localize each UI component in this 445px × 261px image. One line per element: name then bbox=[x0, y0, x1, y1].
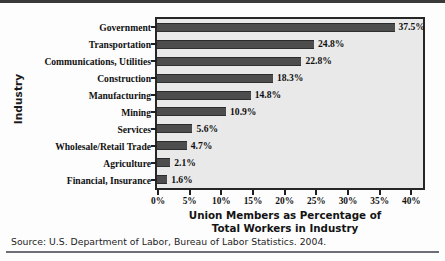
bar-value-label: 1.6% bbox=[171, 175, 193, 184]
x-axis-title-line1: Union Members as Percentage of bbox=[140, 209, 430, 222]
x-axis-tick bbox=[220, 190, 222, 195]
bar-value-label: 37.5% bbox=[399, 22, 425, 31]
x-axis-tick bbox=[347, 190, 349, 195]
chart-figure: Industry GovernmentTransportationCommuni… bbox=[0, 0, 445, 261]
y-axis-tick bbox=[151, 179, 157, 181]
y-axis-tick bbox=[151, 162, 157, 164]
y-axis-tick bbox=[151, 43, 157, 45]
category-label: Transportation bbox=[40, 40, 151, 50]
category-label: Wholesale/Retail Trade bbox=[40, 142, 151, 152]
bar-value-label: 18.3% bbox=[277, 73, 303, 82]
bar-value-label: 14.8% bbox=[255, 90, 281, 99]
y-axis-tick bbox=[151, 26, 157, 28]
category-label: Financial, Insurance bbox=[40, 176, 151, 186]
y-axis-tick bbox=[151, 128, 157, 130]
top-divider bbox=[0, 0, 445, 3]
x-axis-tick bbox=[284, 190, 286, 195]
y-axis-tick bbox=[151, 145, 157, 147]
category-labels: GovernmentTransportationCommunications, … bbox=[40, 18, 151, 190]
bar-value-label: 22.8% bbox=[305, 56, 331, 65]
y-axis-tick bbox=[151, 60, 157, 62]
bar-value-label: 5.6% bbox=[196, 124, 218, 133]
bar bbox=[157, 158, 170, 167]
bar bbox=[157, 107, 226, 116]
x-axis-tick bbox=[410, 190, 412, 195]
x-axis-tick-label: 40% bbox=[391, 196, 431, 206]
y-axis-tick bbox=[151, 111, 157, 113]
category-label: Manufacturing bbox=[40, 91, 151, 101]
y-axis-title: Industry bbox=[12, 64, 24, 134]
category-label: Communications, Utilities bbox=[40, 57, 151, 67]
category-label: Mining bbox=[40, 108, 151, 118]
y-axis-tick bbox=[151, 77, 157, 79]
bar bbox=[157, 74, 273, 83]
x-axis-tick bbox=[315, 190, 317, 195]
source-note: Source: U.S. Department of Labor, Bureau… bbox=[11, 236, 326, 247]
category-label: Construction bbox=[40, 74, 151, 84]
bar bbox=[157, 23, 395, 32]
bar bbox=[157, 91, 251, 100]
y-axis-tick bbox=[151, 94, 157, 96]
x-axis-tick bbox=[157, 190, 159, 195]
category-label: Services bbox=[40, 125, 151, 135]
category-label: Agriculture bbox=[40, 159, 151, 169]
bottom-divider bbox=[6, 251, 439, 253]
bar-value-label: 24.8% bbox=[318, 39, 344, 48]
x-axis-tick bbox=[379, 190, 381, 195]
bar-value-label: 4.7% bbox=[191, 141, 213, 150]
bar-value-label: 2.1% bbox=[174, 158, 196, 167]
x-axis-title-line2: Total Workers in Industry bbox=[140, 222, 430, 235]
bar bbox=[157, 40, 314, 49]
bar bbox=[157, 124, 192, 133]
plot-area: 37.5%24.8%22.8%18.3%14.8%10.9%5.6%4.7%2.… bbox=[155, 17, 425, 190]
bar bbox=[157, 141, 187, 150]
x-axis-tick bbox=[189, 190, 191, 195]
bar bbox=[157, 175, 167, 184]
bar-value-label: 10.9% bbox=[230, 107, 256, 116]
x-axis-title: Union Members as Percentage of Total Wor… bbox=[140, 209, 430, 235]
bar bbox=[157, 57, 301, 66]
x-axis-tick bbox=[252, 190, 254, 195]
category-label: Government bbox=[40, 23, 151, 33]
